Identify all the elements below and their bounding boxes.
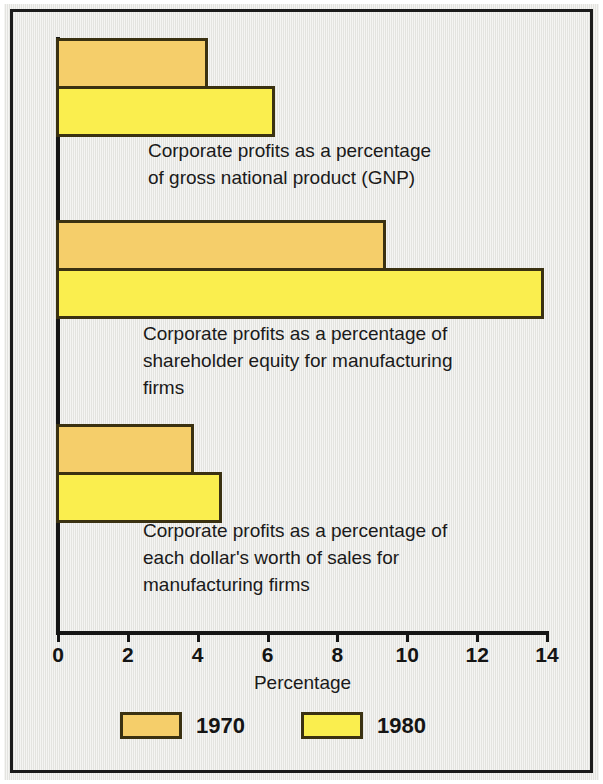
category-caption-gnp: Corporate profits as a percentage of gro… (148, 137, 431, 191)
x-axis-tick-8 (336, 631, 339, 642)
bar-1980-group-2 (56, 268, 544, 319)
category-caption-sales: Corporate profits as a percentage of eac… (143, 517, 447, 598)
x-axis-line (56, 631, 549, 635)
x-axis-tick-label-8: 8 (332, 643, 344, 667)
legend-label-1980: 1980 (377, 713, 426, 739)
x-axis-tick-10 (406, 631, 409, 642)
legend-label-1970: 1970 (196, 713, 245, 739)
bar-1970-group-3 (56, 424, 194, 475)
x-axis-tick-14 (546, 631, 549, 642)
x-axis-tick-12 (476, 631, 479, 642)
x-axis-tick-label-12: 12 (465, 643, 488, 667)
x-axis-tick-label-2: 2 (122, 643, 134, 667)
legend-swatch-1980 (301, 712, 363, 739)
x-axis-tick-label-0: 0 (52, 643, 64, 667)
plot-area: 02468101214 Corporate profits as a perce… (0, 0, 603, 784)
x-axis-tick-label-14: 14 (535, 643, 558, 667)
bar-1970-group-1 (56, 38, 208, 89)
x-axis-tick-2 (127, 631, 130, 642)
chart-figure: 02468101214 Corporate profits as a perce… (0, 0, 603, 784)
x-axis-tick-6 (267, 631, 270, 642)
chart-legend: 1970 1980 (120, 712, 426, 739)
x-axis-tick-label-6: 6 (262, 643, 274, 667)
x-axis-tick-label-4: 4 (192, 643, 204, 667)
x-axis-tick-4 (197, 631, 200, 642)
legend-item-1980: 1980 (301, 712, 426, 739)
bar-1970-group-2 (56, 220, 386, 271)
legend-item-1970: 1970 (120, 712, 245, 739)
x-axis-tick-0 (57, 631, 60, 642)
x-axis-tick-label-10: 10 (396, 643, 419, 667)
bar-1980-group-3 (56, 472, 222, 523)
bar-1980-group-1 (56, 86, 275, 137)
legend-swatch-1970 (120, 712, 182, 739)
x-axis-title: Percentage (56, 672, 549, 694)
category-caption-shareholder-equity: Corporate profits as a percentage of sha… (143, 320, 452, 401)
